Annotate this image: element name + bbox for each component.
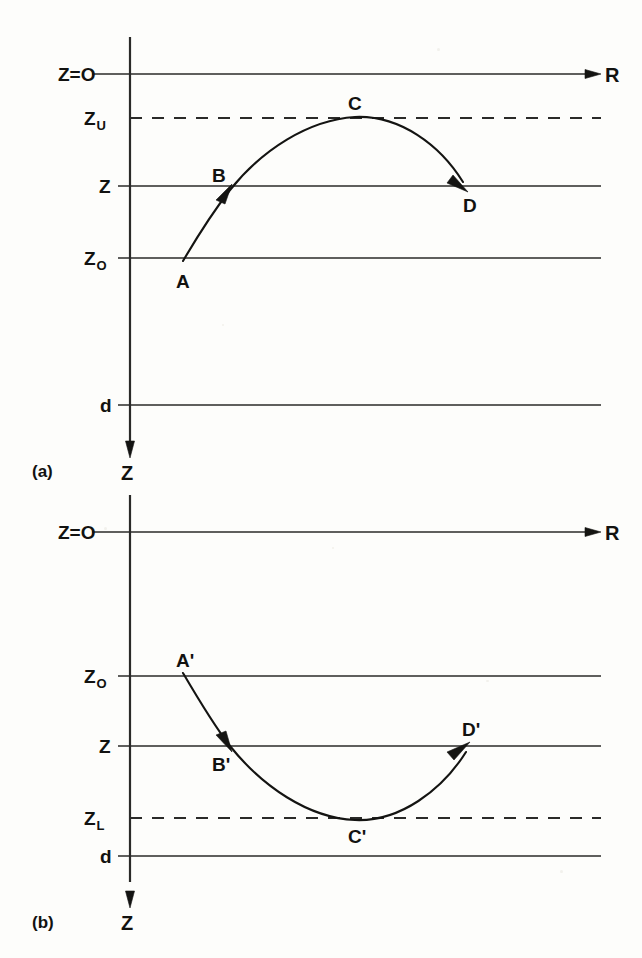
panel-a-label-bottom: d (100, 395, 112, 416)
panel-b-depth-arrow-icon (126, 891, 135, 908)
panel-a-label-source: ZO (84, 248, 107, 273)
panel-b-label-receiver: Z (99, 736, 111, 757)
panel-b-caption: (b) (32, 913, 54, 932)
panel-a-depth-arrow-icon (126, 441, 135, 458)
panel-b-label-lower-turn: ZL (84, 808, 105, 833)
panel-b-point-a-prime: A' (176, 650, 194, 671)
panel-b-point-c-prime: C' (348, 826, 366, 847)
panel-a-label-source-sub: O (97, 258, 107, 273)
panel-b-range-arrow-icon (585, 528, 601, 537)
panel-b-point-d-prime: D' (462, 719, 480, 740)
panel-b: Z=O ZO Z ZL d Z R A' B' C' D' (b) (32, 495, 620, 934)
panel-a-ray-path (183, 117, 463, 261)
panel-a-label-upper-turn: ZU (84, 108, 106, 133)
panel-a-range-arrow-icon (585, 70, 601, 79)
figure-root: Z=O ZU Z ZO d Z R A B C D (a) (0, 0, 642, 958)
panel-b-point-b-prime: B' (212, 754, 230, 775)
panel-b-depth-axis-label: Z (121, 912, 133, 934)
panel-a-point-b: B (212, 165, 226, 186)
panel-b-label-source: ZO (84, 666, 107, 691)
panel-a-range-axis-label: R (605, 64, 620, 86)
panel-a-depth-axis-label: Z (121, 462, 133, 484)
panel-a-point-d: D (463, 195, 477, 216)
panel-b-label-source-sub: O (97, 676, 107, 691)
panel-a-label-surface: Z=O (58, 64, 95, 85)
panel-a-arrow-at-d-icon (447, 175, 468, 192)
panel-a-caption: (a) (32, 462, 53, 481)
panel-a-point-c: C (348, 93, 362, 114)
panel-b-label-lower-turn-sub: L (97, 818, 105, 833)
panel-b-label-surface: Z=O (58, 522, 95, 543)
panel-a-label-receiver: Z (99, 176, 111, 197)
panel-a: Z=O ZU Z ZO d Z R A B C D (a) (32, 37, 620, 484)
panel-b-label-bottom: d (100, 846, 112, 867)
panel-a-arrow-at-b-icon (216, 184, 232, 204)
panel-a-point-a: A (176, 271, 190, 292)
panel-b-arrow-at-d-prime-icon (447, 742, 470, 760)
ray-path-figure: Z=O ZU Z ZO d Z R A B C D (a) (0, 0, 642, 958)
panel-b-arrow-at-b-prime-icon (216, 731, 232, 752)
panel-a-label-upper-turn-sub: U (97, 118, 106, 133)
panel-b-range-axis-label: R (605, 522, 620, 544)
